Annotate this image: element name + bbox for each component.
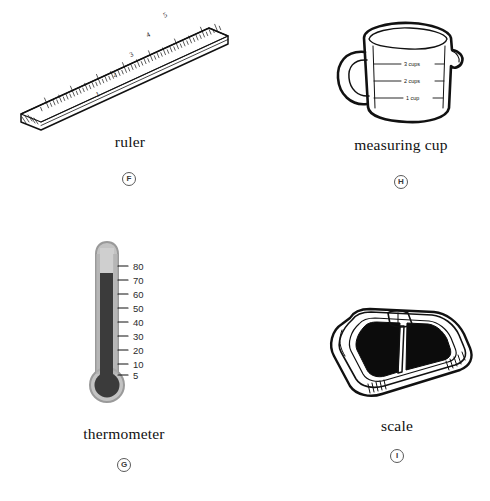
item-caption-scale: scale <box>381 418 413 434</box>
cup-label-1cup: 1 cup <box>406 95 419 101</box>
thermometer-scale-30: 30 <box>133 331 144 342</box>
cup-graduation-2cups: 2 cups <box>374 78 444 84</box>
item-caption-measuring-cup: measuring cup <box>354 137 447 153</box>
thermometer-mercury <box>100 273 113 385</box>
thermometer-scale-50: 50 <box>133 303 144 314</box>
thermometer-illustration: 80 70 60 50 40 30 20 10 5 <box>49 238 199 420</box>
item-thermometer[interactable]: 80 70 60 50 40 30 20 10 5 thermometer G <box>48 238 200 472</box>
item-caption-thermometer: thermometer <box>83 426 164 442</box>
cup-graduation-1cup: 1 cup <box>374 95 443 101</box>
item-measuring-cup[interactable]: 3 cups 2 cups 1 cup measuring cup H <box>322 16 480 189</box>
thermometer-scale-10: 10 <box>133 359 144 370</box>
item-letter-badge-thermometer[interactable]: G <box>117 458 131 472</box>
thermometer-scale-70: 70 <box>133 275 144 286</box>
ruler-tick-4: 4 <box>145 30 152 39</box>
item-letter-badge-ruler[interactable]: F <box>122 172 136 186</box>
cup-graduation-3cups: 3 cups <box>374 61 444 67</box>
ruler-tick-3: 3 <box>128 50 135 59</box>
ruler-tick-5: 5 <box>162 11 169 20</box>
item-letter-badge-scale[interactable]: I <box>390 449 404 463</box>
measuring-cup-illustration: 3 cups 2 cups 1 cup <box>331 16 471 131</box>
thermometer-scale-5: 5 <box>133 370 138 381</box>
item-caption-ruler: ruler <box>115 134 145 150</box>
bathroom-scale-illustration <box>312 300 482 410</box>
thermometer-scale-80: 80 <box>133 261 144 272</box>
ruler-illustration: 1 2 3 4 5 6 7 <box>17 22 237 132</box>
ruler-tick-2: 2 <box>111 70 118 79</box>
item-letter-badge-measuring-cup[interactable]: H <box>394 175 408 189</box>
worksheet-canvas: 1 2 3 4 5 6 7 ruler F <box>0 0 490 501</box>
item-scale[interactable]: scale I <box>312 300 482 463</box>
thermometer-scale-60: 60 <box>133 289 144 300</box>
thermometer-scale-40: 40 <box>133 317 144 328</box>
thermometer-scale-20: 20 <box>133 345 144 356</box>
cup-label-2cups: 2 cups <box>404 78 420 84</box>
item-ruler[interactable]: 1 2 3 4 5 6 7 ruler F <box>14 22 240 186</box>
scale-pad-left <box>356 322 400 377</box>
cup-label-3cups: 3 cups <box>404 61 420 67</box>
